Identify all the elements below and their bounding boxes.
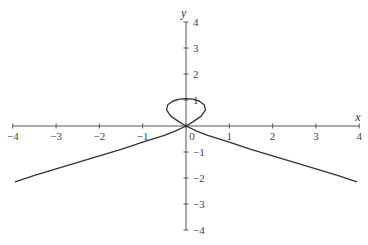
y-tick-label: −4 [193,224,205,236]
x-tick-label: 2 [270,130,276,142]
y-tick-label: −2 [193,172,205,184]
plot-area: −4−3−2−101234−4−3−2−11234xy [0,0,368,245]
x-axis-label: x [354,110,361,124]
y-tick-label: 3 [193,42,199,54]
x-tick-label: 0 [189,130,195,142]
y-tick-label: −3 [193,198,205,210]
x-tick-label: 3 [313,130,319,142]
y-axis-label: y [180,6,187,20]
y-tick-label: 4 [193,16,199,28]
x-tick-label: 4 [356,130,362,142]
x-tick-label: −4 [7,130,19,142]
x-tick-label: 1 [227,130,233,142]
y-tick-label: −1 [193,146,205,158]
x-tick-label: −3 [50,130,62,142]
x-tick-label: −2 [94,130,106,142]
y-tick-label: 2 [193,68,199,80]
